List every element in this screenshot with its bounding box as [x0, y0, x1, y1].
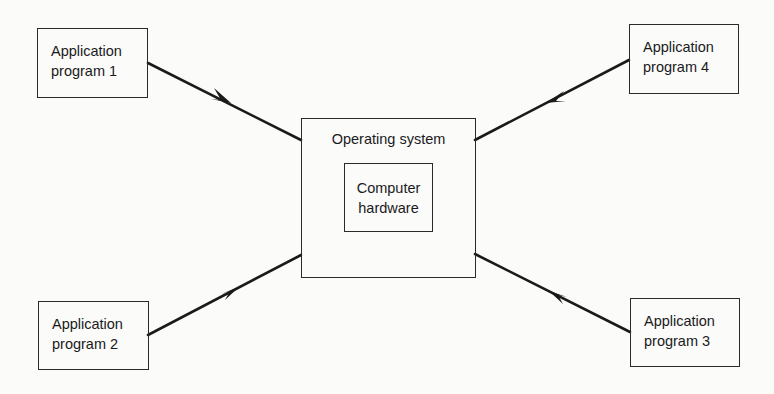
label-line: Application [51, 41, 147, 61]
application-program-3-label: Application program 3 [644, 311, 739, 351]
label-line: Application [52, 314, 148, 334]
label-line: program 1 [51, 61, 147, 81]
label-line: program 3 [644, 331, 739, 351]
label-line: Computer [345, 178, 432, 198]
edge-app2-to-os [148, 255, 301, 335]
application-program-4-box: Application program 4 [629, 24, 739, 94]
application-program-3-box: Application program 3 [630, 298, 740, 367]
arrowhead-icon [221, 287, 239, 300]
application-program-4-label: Application program 4 [643, 37, 738, 77]
label-line: hardware [345, 198, 432, 218]
label-line: Application [644, 311, 739, 331]
computer-hardware-label: Computer hardware [345, 178, 432, 218]
computer-hardware-box: Computer hardware [344, 163, 433, 232]
operating-system-label: Operating system [302, 129, 475, 149]
application-program-2-label: Application program 2 [52, 314, 148, 354]
label-line: program 4 [643, 57, 738, 77]
application-program-2-box: Application program 2 [38, 301, 149, 370]
label-line: program 2 [52, 334, 148, 354]
diagram-canvas: Application program 1 Application progra… [0, 0, 774, 394]
label-line: Application [643, 37, 738, 57]
arrowhead-icon [546, 91, 566, 103]
application-program-1-box: Application program 1 [37, 28, 148, 98]
application-program-1-label: Application program 1 [51, 41, 147, 81]
